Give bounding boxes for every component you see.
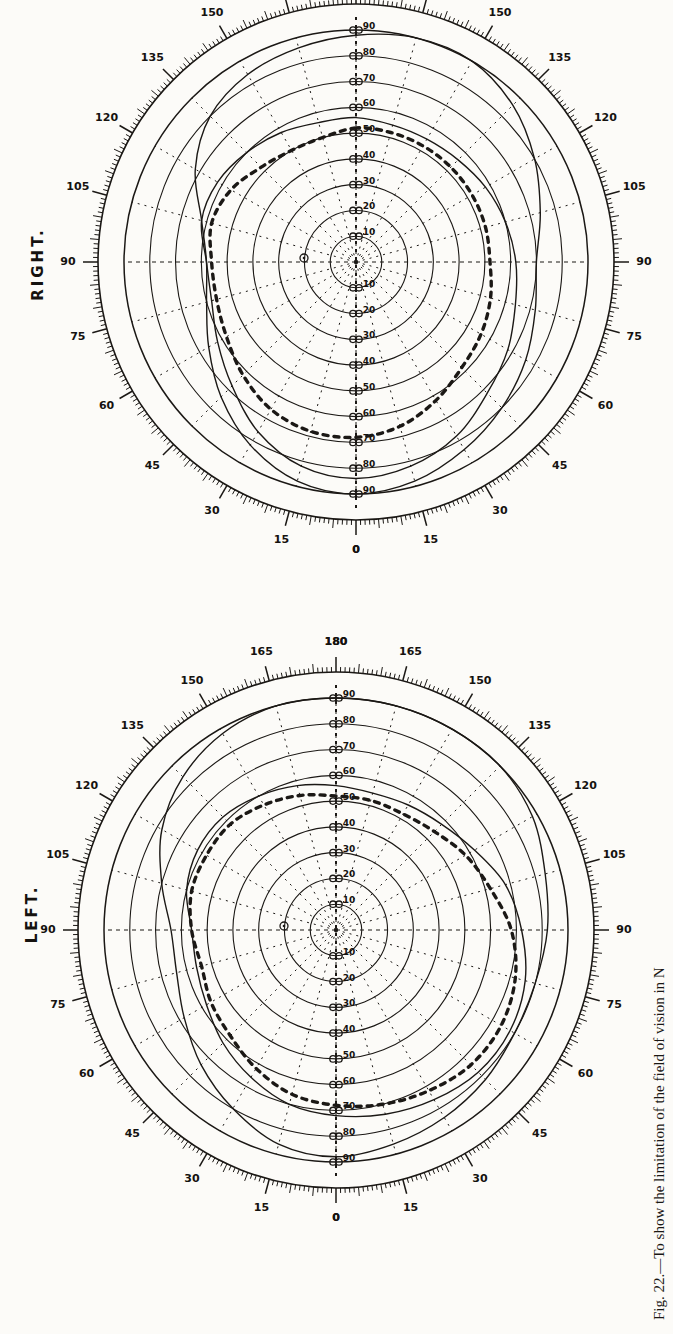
svg-text:30: 30 xyxy=(492,504,508,517)
svg-text:135: 135 xyxy=(528,719,551,732)
svg-text:105: 105 xyxy=(46,848,69,861)
svg-text:30: 30 xyxy=(184,1172,200,1185)
svg-text:30: 30 xyxy=(343,998,356,1008)
svg-text:20: 20 xyxy=(343,869,356,879)
svg-text:75: 75 xyxy=(70,330,85,343)
svg-text:0: 0 xyxy=(352,543,360,556)
svg-text:30: 30 xyxy=(204,504,220,517)
svg-text:60: 60 xyxy=(343,1076,356,1086)
svg-text:20: 20 xyxy=(343,973,356,983)
svg-text:80: 80 xyxy=(363,47,376,57)
svg-text:30: 30 xyxy=(343,844,356,854)
svg-text:60: 60 xyxy=(598,399,614,412)
svg-text:80: 80 xyxy=(343,1127,356,1137)
svg-text:30: 30 xyxy=(363,330,376,340)
svg-text:10: 10 xyxy=(343,947,356,957)
svg-text:15: 15 xyxy=(403,1201,418,1214)
svg-text:120: 120 xyxy=(574,779,597,792)
svg-text:60: 60 xyxy=(343,766,356,776)
svg-text:15: 15 xyxy=(254,1201,269,1214)
svg-text:90: 90 xyxy=(363,21,376,31)
svg-text:180: 180 xyxy=(325,635,348,648)
svg-text:10: 10 xyxy=(343,895,356,905)
svg-text:80: 80 xyxy=(363,459,376,469)
svg-text:45: 45 xyxy=(532,1127,547,1140)
svg-text:105: 105 xyxy=(66,180,89,193)
svg-text:120: 120 xyxy=(75,779,98,792)
svg-text:10: 10 xyxy=(363,227,376,237)
svg-text:60: 60 xyxy=(363,98,376,108)
svg-text:75: 75 xyxy=(627,330,642,343)
svg-text:45: 45 xyxy=(125,1127,140,1140)
svg-text:20: 20 xyxy=(363,201,376,211)
svg-text:120: 120 xyxy=(594,111,617,124)
svg-text:135: 135 xyxy=(548,51,571,64)
svg-text:80: 80 xyxy=(343,715,356,725)
svg-text:150: 150 xyxy=(201,6,224,19)
svg-text:40: 40 xyxy=(343,818,356,828)
chart-left-eye-canvas: 0153045607590105120135150165180153045607… xyxy=(36,630,636,1230)
svg-text:75: 75 xyxy=(607,998,622,1011)
svg-text:70: 70 xyxy=(343,741,356,751)
svg-text:150: 150 xyxy=(489,6,512,19)
svg-text:60: 60 xyxy=(363,408,376,418)
svg-text:90: 90 xyxy=(343,1153,356,1163)
svg-text:30: 30 xyxy=(472,1172,488,1185)
svg-text:135: 135 xyxy=(141,51,164,64)
svg-text:45: 45 xyxy=(145,459,160,472)
chart-right-eye-canvas: 0153045607590105120135150165180153045607… xyxy=(56,0,656,562)
svg-text:20: 20 xyxy=(363,305,376,315)
svg-text:50: 50 xyxy=(363,382,376,392)
svg-text:0: 0 xyxy=(332,1211,340,1224)
svg-text:15: 15 xyxy=(423,533,438,546)
chart-left-eye-title: LEFT. xyxy=(23,869,41,959)
svg-text:120: 120 xyxy=(95,111,118,124)
chart-right-eye-title: RIGHT. xyxy=(29,219,47,309)
svg-text:30: 30 xyxy=(363,176,376,186)
svg-text:45: 45 xyxy=(552,459,567,472)
svg-text:40: 40 xyxy=(343,1024,356,1034)
svg-text:105: 105 xyxy=(623,180,646,193)
svg-text:150: 150 xyxy=(181,674,204,687)
svg-text:90: 90 xyxy=(636,255,652,268)
svg-text:75: 75 xyxy=(50,998,65,1011)
svg-text:90: 90 xyxy=(40,923,56,936)
svg-text:60: 60 xyxy=(99,399,115,412)
svg-text:60: 60 xyxy=(79,1067,95,1080)
chart-left-eye: 0153045607590105120135150165180153045607… xyxy=(36,630,636,1230)
svg-text:15: 15 xyxy=(274,533,289,546)
svg-text:150: 150 xyxy=(469,674,492,687)
svg-text:90: 90 xyxy=(616,923,632,936)
svg-text:135: 135 xyxy=(121,719,144,732)
chart-right-eye: 0153045607590105120135150165180153045607… xyxy=(56,0,656,562)
figure-caption: Fig. 22.—To show the limitation of the f… xyxy=(651,967,668,1320)
svg-text:165: 165 xyxy=(399,645,422,658)
svg-text:50: 50 xyxy=(343,1050,356,1060)
svg-text:165: 165 xyxy=(250,645,273,658)
figure-page: 0153045607590105120135150165180153045607… xyxy=(0,0,673,1334)
svg-text:40: 40 xyxy=(363,356,376,366)
svg-text:40: 40 xyxy=(363,150,376,160)
svg-text:105: 105 xyxy=(603,848,626,861)
svg-text:90: 90 xyxy=(60,255,76,268)
svg-text:60: 60 xyxy=(578,1067,594,1080)
svg-text:10: 10 xyxy=(363,279,376,289)
svg-text:70: 70 xyxy=(363,73,376,83)
